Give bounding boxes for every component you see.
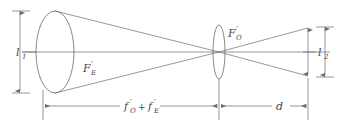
label-objective-focus-base: F <box>227 27 236 40</box>
label-l2: l 2 <box>318 46 329 61</box>
label-objective-focus-subscript: O <box>236 34 242 42</box>
label-l2-base: l <box>318 46 322 59</box>
label-focal-sum-term2-subscript: E <box>153 107 159 115</box>
label-focal-sum-term1-subscript: O <box>130 107 136 115</box>
label-focal-sum-term1-base: f <box>123 100 130 113</box>
label-l2-subscript: 2 <box>323 53 329 61</box>
optical-ray-diagram: l 1 l 2 F ′ E F ′ O f ′ O + f ′ E <box>0 0 345 126</box>
label-eyepiece-focus: F ′ E <box>82 60 96 77</box>
label-focal-sum: f ′ O + f ′ E <box>123 98 159 115</box>
label-l1: l 1 <box>16 46 26 61</box>
label-l1-base: l <box>16 46 20 59</box>
bottom-extension-lines <box>43 78 308 120</box>
label-focal-sum-operator: + <box>138 102 146 112</box>
diagram-canvas: l 1 l 2 F ′ E F ′ O f ′ O + f ′ E <box>0 0 345 126</box>
label-exit-distance: d <box>276 100 283 113</box>
label-eyepiece-focus-base: F <box>82 62 91 75</box>
label-objective-focus: F ′ O <box>227 25 242 42</box>
label-focal-sum-term2-base: f <box>147 100 154 113</box>
label-l1-subscript: 1 <box>22 53 26 61</box>
label-exit-distance-base: d <box>276 100 283 113</box>
label-eyepiece-focus-subscript: E <box>90 69 96 77</box>
